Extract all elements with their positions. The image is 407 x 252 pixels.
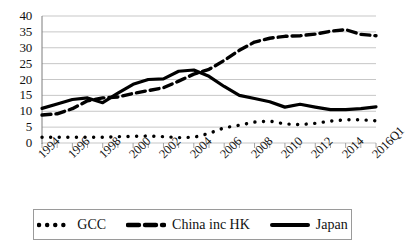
chart-plot-region: 0510152025303540 19941996199820002002200… (0, 0, 385, 196)
legend-item-japan[interactable]: Japan (270, 217, 348, 233)
y-tick-label: 30 (6, 41, 32, 54)
series-line-japan (42, 70, 376, 110)
y-tick-label: 40 (6, 9, 32, 22)
legend-swatch-solid (270, 220, 310, 230)
chart-legend: GCCChina inc HKJapan (33, 209, 352, 240)
legend-item-gcc[interactable]: GCC (37, 217, 106, 233)
legend-label: GCC (77, 217, 106, 233)
y-tick-label: 35 (6, 25, 32, 38)
y-tick-label: 20 (6, 73, 32, 86)
chart-svg (0, 0, 385, 196)
legend-swatch-dotted (37, 220, 71, 230)
y-tick-label: 0 (6, 136, 32, 149)
legend-item-china-inc-hk[interactable]: China inc HK (126, 217, 250, 233)
data-series-layer (42, 30, 376, 138)
legend-label: China inc HK (172, 217, 250, 233)
gridlines (42, 16, 376, 143)
y-tick-label: 25 (6, 57, 32, 70)
legend-swatch-dashed (126, 220, 166, 230)
y-tick-label: 5 (6, 120, 32, 133)
y-tick-label: 10 (6, 104, 32, 117)
legend-label: Japan (316, 217, 348, 233)
series-line-china-inc-hk (42, 30, 376, 115)
y-tick-label: 15 (6, 88, 32, 101)
